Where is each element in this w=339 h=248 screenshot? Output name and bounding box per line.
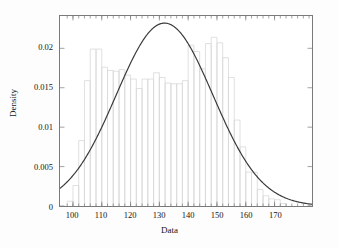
plot-area	[59, 15, 313, 207]
axis-ticks	[60, 16, 312, 206]
y-tick-label: 0	[0, 203, 53, 212]
chart-figure: 00.0050.010.0150.02 10011012013014015016…	[0, 0, 339, 248]
y-axis-title: Density	[8, 73, 18, 133]
x-tick-label: 170	[255, 211, 295, 220]
y-tick-label: 0.005	[0, 163, 53, 172]
y-tick-label: 0.02	[0, 43, 53, 52]
x-axis-title: Data	[0, 225, 339, 235]
